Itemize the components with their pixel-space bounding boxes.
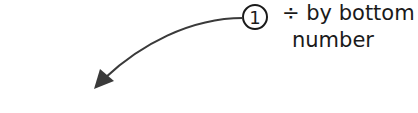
step-instruction-line-1: ÷ by bottom xyxy=(282,0,415,27)
curved-arrow-icon xyxy=(94,18,243,89)
division-equation: 35 ÷ 5 = 7 xyxy=(22,86,65,113)
step-number: 1 xyxy=(249,7,260,28)
step-number-badge: 1 xyxy=(243,5,267,29)
step-instruction: ÷ by bottom number xyxy=(282,0,415,54)
step-instruction-line-2: number xyxy=(282,27,415,54)
